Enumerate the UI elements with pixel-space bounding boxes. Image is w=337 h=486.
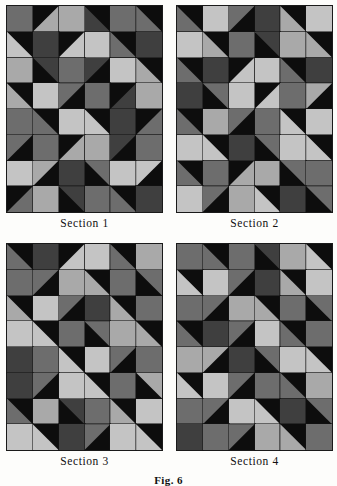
- cell-base: [33, 135, 59, 161]
- cell-base: [306, 373, 332, 399]
- pattern-cell: [59, 296, 85, 322]
- section-panel-3: [6, 243, 163, 451]
- pattern-cell: [110, 424, 136, 450]
- pattern-cell: [177, 109, 203, 135]
- cell-base: [177, 186, 203, 212]
- cell-base: [306, 424, 332, 450]
- pattern-cell: [136, 135, 162, 161]
- pattern-cell: [255, 373, 281, 399]
- pattern-cell: [280, 244, 306, 270]
- pattern-cell: [7, 135, 33, 161]
- pattern-cell: [255, 244, 281, 270]
- section-caption-1: Section 1: [6, 217, 163, 229]
- pattern-cell: [280, 399, 306, 425]
- pattern-cell: [280, 109, 306, 135]
- pattern-cell: [33, 161, 59, 187]
- pattern-cell: [7, 186, 33, 212]
- pattern-cell: [33, 58, 59, 84]
- cell-base: [33, 296, 59, 322]
- pattern-cell: [229, 244, 255, 270]
- cell-base: [33, 244, 59, 270]
- cell-base: [177, 347, 203, 373]
- pattern-cell: [306, 296, 332, 322]
- pattern-cell: [306, 6, 332, 32]
- pattern-cell: [306, 135, 332, 161]
- pattern-cell: [136, 32, 162, 58]
- pattern-cell: [177, 296, 203, 322]
- cell-base: [136, 32, 162, 58]
- pattern-cell: [59, 399, 85, 425]
- cell-base: [33, 347, 59, 373]
- cell-base: [229, 186, 255, 212]
- pattern-cell: [59, 321, 85, 347]
- pattern-cell: [177, 161, 203, 187]
- pattern-cell: [85, 6, 111, 32]
- pattern-cell: [85, 321, 111, 347]
- pattern-cell: [85, 135, 111, 161]
- pattern-cell: [85, 296, 111, 322]
- cell-base: [177, 135, 203, 161]
- pattern-cell: [229, 135, 255, 161]
- cell-base: [177, 424, 203, 450]
- pattern-cell: [59, 424, 85, 450]
- cell-base: [7, 58, 33, 84]
- pattern-cell: [110, 399, 136, 425]
- cell-base: [306, 161, 332, 187]
- pattern-cell: [7, 270, 33, 296]
- pattern-cell: [7, 321, 33, 347]
- pattern-cell: [255, 6, 281, 32]
- pattern-cell: [85, 186, 111, 212]
- cell-base: [255, 6, 281, 32]
- pattern-cell: [59, 186, 85, 212]
- pattern-cell: [229, 424, 255, 450]
- pattern-cell: [33, 296, 59, 322]
- cell-base: [280, 186, 306, 212]
- pattern-cell: [203, 270, 229, 296]
- cell-base: [33, 83, 59, 109]
- cell-base: [203, 161, 229, 187]
- pattern-cell: [280, 321, 306, 347]
- cell-base: [110, 109, 136, 135]
- pattern-cell: [7, 109, 33, 135]
- pattern-cell: [229, 399, 255, 425]
- pattern-cell: [255, 161, 281, 187]
- cell-base: [229, 135, 255, 161]
- cell-base: [203, 109, 229, 135]
- cell-base: [85, 347, 111, 373]
- pattern-cell: [136, 6, 162, 32]
- cell-base: [306, 321, 332, 347]
- cell-base: [136, 399, 162, 425]
- cell-base: [85, 244, 111, 270]
- cell-base: [59, 109, 85, 135]
- pattern-cell: [59, 58, 85, 84]
- pattern-cell: [33, 399, 59, 425]
- pattern-cell: [7, 424, 33, 450]
- pattern-cell: [177, 270, 203, 296]
- cell-base: [110, 6, 136, 32]
- cell-base: [7, 270, 33, 296]
- pattern-cell: [110, 347, 136, 373]
- cell-base: [177, 244, 203, 270]
- pattern-cell: [59, 161, 85, 187]
- cell-base: [85, 296, 111, 322]
- pattern-cell: [33, 83, 59, 109]
- pattern-grid: [6, 243, 163, 451]
- cell-base: [33, 186, 59, 212]
- figure-root: Section 1Section 2Section 3Section 4Fig.…: [0, 0, 337, 486]
- cell-base: [255, 424, 281, 450]
- pattern-cell: [110, 270, 136, 296]
- cell-base: [85, 135, 111, 161]
- pattern-cell: [306, 244, 332, 270]
- cell-base: [255, 109, 281, 135]
- cell-base: [7, 347, 33, 373]
- cell-base: [59, 58, 85, 84]
- pattern-cell: [7, 58, 33, 84]
- pattern-cell: [136, 58, 162, 84]
- cell-base: [306, 270, 332, 296]
- cell-base: [229, 296, 255, 322]
- cell-base: [110, 373, 136, 399]
- cell-base: [177, 32, 203, 58]
- pattern-cell: [33, 109, 59, 135]
- pattern-cell: [110, 109, 136, 135]
- pattern-cell: [306, 109, 332, 135]
